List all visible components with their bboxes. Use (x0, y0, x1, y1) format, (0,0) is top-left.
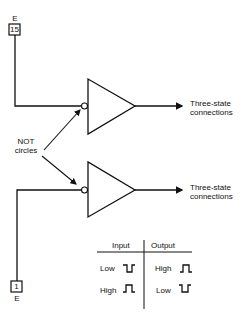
output-label-top: Three-state connections (190, 99, 233, 117)
annotation-line2: circles (11, 146, 41, 155)
output-label-bottom-line2: connections (190, 192, 233, 201)
table-row2-input: High (100, 286, 116, 295)
pin-number-top: 15 (9, 25, 20, 34)
output-label-bottom: Three-state connections (190, 183, 233, 201)
table-header-input: Input (112, 241, 130, 250)
waveform-high-pulse-icon (180, 265, 192, 272)
not-circle-top (82, 103, 88, 109)
waveform-low-pulse-icon (123, 265, 135, 272)
not-circle-bottom (82, 187, 88, 193)
wire-top (15, 35, 81, 106)
not-circles-annotation: NOT circles (11, 137, 41, 155)
table-header-output: Output (151, 241, 175, 250)
output-label-top-line1: Three-state (190, 99, 233, 108)
pin-label-bottom: E (12, 294, 22, 303)
table-row2-output: Low (156, 286, 171, 295)
pin-label-top: E (10, 14, 20, 23)
wire-bottom (17, 190, 81, 281)
annotation-arrow-bottom (42, 156, 76, 184)
waveform-low-pulse-icon (179, 285, 191, 292)
diagram-canvas (0, 0, 243, 315)
output-label-bottom-line1: Three-state (190, 183, 233, 192)
annotation-line1: NOT (11, 137, 41, 146)
waveform-high-pulse-icon (123, 285, 135, 292)
annotation-arrow-top (44, 110, 80, 150)
table-row1-input: Low (100, 264, 115, 273)
buffer-triangle-bottom (88, 162, 135, 217)
table-row1-output: High (155, 264, 171, 273)
buffer-triangle-top (88, 79, 135, 134)
output-label-top-line2: connections (190, 108, 233, 117)
pin-number-bottom: 1 (11, 282, 22, 291)
